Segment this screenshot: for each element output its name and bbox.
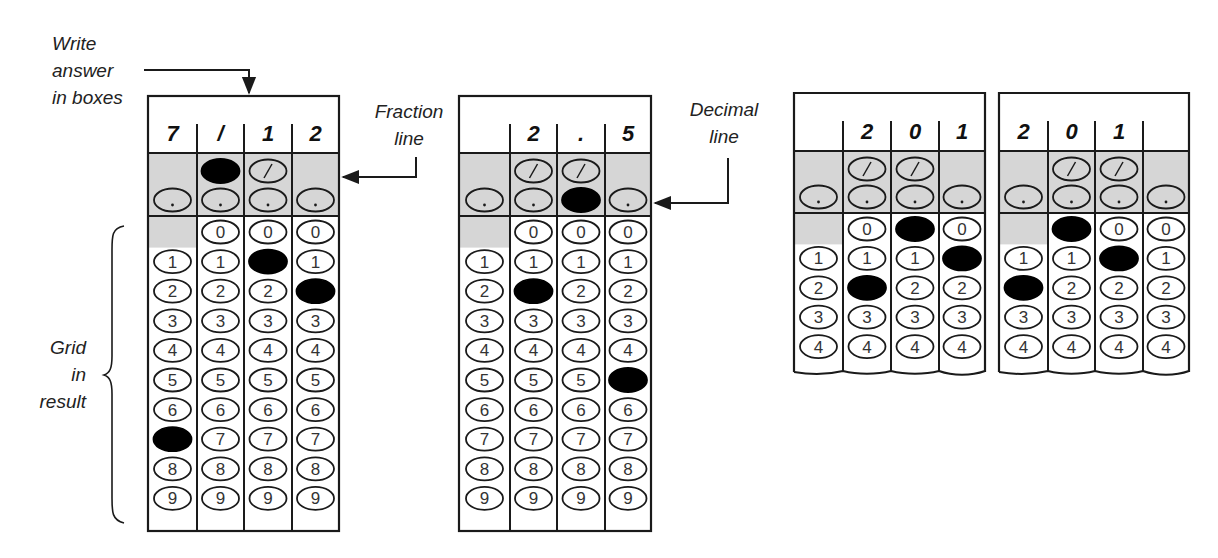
digit-bubble-col-0-8[interactable]: 8	[154, 457, 191, 480]
digit-bubble-col-0-2[interactable]	[1005, 276, 1043, 300]
dot-bubble-col-0[interactable]	[466, 189, 503, 212]
digit-bubble-col-0-2[interactable]: 2	[800, 276, 837, 299]
answer-box-2[interactable]: .	[578, 121, 584, 146]
digit-bubble-col-2-8[interactable]: 8	[563, 457, 600, 480]
digit-bubble-col-1-4[interactable]: 4	[202, 339, 239, 362]
digit-bubble-col-1-8[interactable]: 8	[515, 457, 552, 480]
digit-bubble-col-0-5[interactable]: 5	[154, 369, 191, 392]
digit-bubble-col-2-0[interactable]: 0	[563, 221, 600, 244]
digit-bubble-col-2-4[interactable]: 4	[1101, 335, 1138, 358]
digit-bubble-col-3-3[interactable]: 3	[944, 306, 981, 329]
digit-bubble-col-3-1[interactable]	[943, 246, 981, 270]
digit-bubble-col-1-0[interactable]: 0	[202, 221, 239, 244]
digit-bubble-col-1-1[interactable]: 1	[202, 250, 239, 273]
digit-bubble-col-0-4[interactable]: 4	[1005, 335, 1042, 358]
digit-bubble-col-0-7[interactable]	[154, 427, 192, 451]
answer-box-2[interactable]: 1	[262, 121, 274, 146]
answer-box-1[interactable]: 2	[526, 121, 540, 146]
digit-bubble-col-3-9[interactable]: 9	[297, 487, 334, 510]
digit-bubble-col-0-4[interactable]: 4	[154, 339, 191, 362]
digit-bubble-col-2-2[interactable]: 2	[897, 276, 934, 299]
digit-bubble-col-0-9[interactable]: 9	[466, 487, 503, 510]
digit-bubble-col-2-4[interactable]: 4	[563, 339, 600, 362]
digit-bubble-col-0-8[interactable]: 8	[466, 457, 503, 480]
digit-bubble-col-1-3[interactable]: 3	[202, 309, 239, 332]
answer-box-1[interactable]: /	[216, 121, 226, 146]
digit-bubble-col-3-0[interactable]: 0	[297, 221, 334, 244]
digit-bubble-col-1-4[interactable]: 4	[849, 335, 886, 358]
digit-bubble-col-1-5[interactable]: 5	[202, 369, 239, 392]
digit-bubble-col-2-1[interactable]	[1100, 246, 1138, 270]
dot-bubble-col-2[interactable]	[562, 188, 600, 212]
digit-bubble-col-2-7[interactable]: 7	[563, 428, 600, 451]
digit-bubble-col-2-0[interactable]: 0	[250, 221, 287, 244]
dot-bubble-col-3[interactable]	[297, 189, 334, 212]
digit-bubble-col-0-3[interactable]: 3	[800, 306, 837, 329]
digit-bubble-col-2-5[interactable]: 5	[563, 369, 600, 392]
digit-bubble-col-0-1[interactable]: 1	[1005, 247, 1042, 270]
digit-bubble-col-1-5[interactable]: 5	[515, 369, 552, 392]
digit-bubble-col-2-4[interactable]: 4	[897, 335, 934, 358]
digit-bubble-col-3-4[interactable]: 4	[1148, 335, 1185, 358]
digit-bubble-col-3-4[interactable]: 4	[944, 335, 981, 358]
answer-box-2[interactable]: 0	[909, 119, 922, 144]
digit-bubble-col-1-2[interactable]: 2	[1053, 276, 1090, 299]
digit-bubble-col-1-2[interactable]	[848, 276, 886, 300]
digit-bubble-col-3-1[interactable]: 1	[610, 250, 647, 273]
digit-bubble-col-2-7[interactable]: 7	[250, 428, 287, 451]
digit-bubble-col-2-6[interactable]: 6	[563, 398, 600, 421]
digit-bubble-col-1-7[interactable]: 7	[515, 428, 552, 451]
dot-bubble-col-3[interactable]	[944, 186, 981, 209]
dot-bubble-col-2[interactable]	[250, 189, 287, 212]
slash-bubble-col-2[interactable]	[563, 160, 600, 183]
digit-bubble-col-1-2[interactable]: 2	[202, 280, 239, 303]
digit-bubble-col-3-4[interactable]: 4	[297, 339, 334, 362]
digit-bubble-col-2-1[interactable]	[249, 250, 287, 274]
answer-box-3[interactable]: 1	[956, 119, 968, 144]
dot-bubble-col-3[interactable]	[1148, 186, 1185, 209]
digit-bubble-col-1-4[interactable]: 4	[515, 339, 552, 362]
digit-bubble-col-2-8[interactable]: 8	[250, 457, 287, 480]
digit-bubble-col-3-2[interactable]: 2	[944, 276, 981, 299]
digit-bubble-col-0-6[interactable]: 6	[466, 398, 503, 421]
dot-bubble-col-1[interactable]	[515, 189, 552, 212]
digit-bubble-col-2-9[interactable]: 9	[563, 487, 600, 510]
digit-bubble-col-2-3[interactable]: 3	[563, 309, 600, 332]
digit-bubble-col-1-0[interactable]: 0	[515, 221, 552, 244]
digit-bubble-col-0-1[interactable]: 1	[800, 247, 837, 270]
dot-bubble-col-0[interactable]	[154, 189, 191, 212]
answer-box-0[interactable]: 2	[1016, 119, 1030, 144]
digit-bubble-col-1-4[interactable]: 4	[1053, 335, 1090, 358]
digit-bubble-col-3-1[interactable]: 1	[1148, 247, 1185, 270]
digit-bubble-col-0-3[interactable]: 3	[1005, 306, 1042, 329]
digit-bubble-col-0-9[interactable]: 9	[154, 487, 191, 510]
digit-bubble-col-1-2[interactable]	[515, 279, 553, 303]
digit-bubble-col-2-2[interactable]: 2	[1101, 276, 1138, 299]
dot-bubble-col-0[interactable]	[1005, 186, 1042, 209]
digit-bubble-col-2-2[interactable]: 2	[563, 280, 600, 303]
digit-bubble-col-3-5[interactable]: 5	[297, 369, 334, 392]
digit-bubble-col-3-0[interactable]: 0	[1148, 218, 1185, 241]
digit-bubble-col-2-0[interactable]	[896, 217, 934, 241]
digit-bubble-col-0-2[interactable]: 2	[154, 280, 191, 303]
digit-bubble-col-0-1[interactable]: 1	[154, 250, 191, 273]
digit-bubble-col-2-3[interactable]: 3	[1101, 306, 1138, 329]
digit-bubble-col-0-4[interactable]: 4	[466, 339, 503, 362]
digit-bubble-col-3-3[interactable]: 3	[1148, 306, 1185, 329]
digit-bubble-col-2-4[interactable]: 4	[250, 339, 287, 362]
digit-bubble-col-2-3[interactable]: 3	[897, 306, 934, 329]
digit-bubble-col-3-7[interactable]: 7	[297, 428, 334, 451]
digit-bubble-col-2-3[interactable]: 3	[250, 309, 287, 332]
dot-bubble-col-3[interactable]	[610, 189, 647, 212]
dot-bubble-col-0[interactable]	[800, 186, 837, 209]
digit-bubble-col-2-9[interactable]: 9	[250, 487, 287, 510]
answer-box-1[interactable]: 2	[860, 119, 874, 144]
digit-bubble-col-3-3[interactable]: 3	[610, 309, 647, 332]
digit-bubble-col-3-2[interactable]: 2	[610, 280, 647, 303]
dot-bubble-col-2[interactable]	[1101, 186, 1138, 209]
answer-box-3[interactable]: 5	[622, 121, 635, 146]
digit-bubble-col-3-5[interactable]	[609, 368, 647, 392]
answer-box-1[interactable]: 0	[1065, 119, 1078, 144]
digit-bubble-col-3-8[interactable]: 8	[297, 457, 334, 480]
digit-bubble-col-1-9[interactable]: 9	[515, 487, 552, 510]
